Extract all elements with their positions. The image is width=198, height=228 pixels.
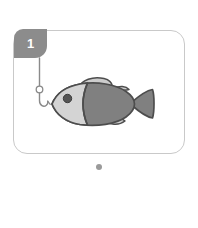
pager-dots[interactable] [0,161,198,173]
step-badge: 1 [14,29,47,58]
pager-dot-1[interactable] [96,164,102,170]
slide-stage: 1 [0,0,198,228]
step-badge-label: 1 [27,37,34,51]
